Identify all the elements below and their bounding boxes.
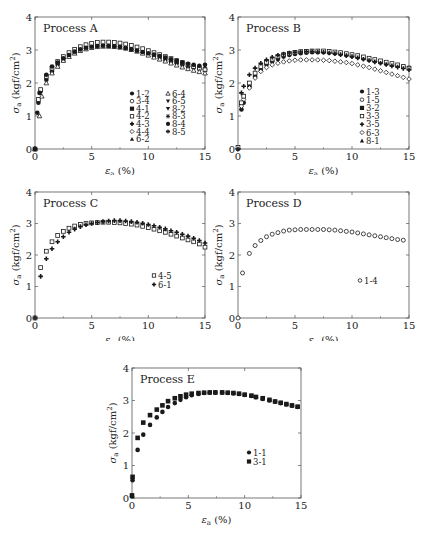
- x-tick-label: 10: [238, 500, 251, 511]
- y-tick-label: 2: [123, 428, 129, 439]
- legend-item: 3-1: [247, 457, 267, 467]
- x-tick-label: 5: [292, 320, 298, 331]
- x-tick-label: 10: [142, 151, 155, 162]
- x-axis: 051015: [129, 368, 308, 511]
- plot-frame: [238, 17, 409, 149]
- plot-area: 05101501234εa (%)σa (kgf/cm2)Process B1-…: [210, 0, 423, 175]
- chart-title: Process B: [246, 22, 301, 35]
- series-1-4: [236, 227, 405, 320]
- svg-text:6-2: 6-2: [136, 134, 150, 144]
- y-tick-label: 1: [229, 281, 235, 292]
- plot-area: 05101501234εa (%)σa (kgf/cm2)Process C4-…: [0, 176, 215, 341]
- x-axis: 051015: [235, 17, 416, 162]
- svg-text:6-1: 6-1: [158, 280, 172, 290]
- x-tick-label: 5: [88, 151, 94, 162]
- data-points: [130, 390, 300, 499]
- y-tick-label: 2: [229, 250, 235, 261]
- series-1-1: [130, 390, 300, 498]
- y-tick-label: 1: [123, 460, 129, 471]
- plot-frame: [132, 368, 301, 498]
- data-points: [236, 49, 412, 151]
- y-tick-label: 0: [229, 144, 235, 155]
- legend: 1-4: [358, 276, 378, 286]
- x-tick-label: 15: [295, 500, 308, 511]
- svg-text:3-1: 3-1: [253, 457, 267, 467]
- data-points: [33, 218, 208, 320]
- x-tick-label: 15: [403, 320, 416, 331]
- x-tick-label: 5: [185, 500, 191, 511]
- legend-item: 8-5: [166, 127, 186, 137]
- x-tick-label: 0: [235, 151, 241, 162]
- legend-item: 1-4: [358, 276, 378, 286]
- chart-process-a: 05101501234εa (%)σa (kgf/cm2)Process A1-…: [0, 0, 215, 179]
- y-tick-label: 1: [26, 281, 32, 292]
- x-axis-label: εa (%): [308, 165, 338, 175]
- y-tick-label: 0: [123, 493, 129, 504]
- y-tick-label: 0: [26, 144, 32, 155]
- y-tick-label: 3: [229, 45, 235, 56]
- x-tick-label: 15: [403, 151, 416, 162]
- x-tick-label: 5: [292, 151, 298, 162]
- chart-title: Process C: [43, 197, 98, 210]
- plot-area: 05101501234εa (%)σa (kgf/cm2)Process A1-…: [0, 0, 215, 175]
- svg-text:8-5: 8-5: [172, 127, 186, 137]
- plot-area: 05101501234εa (%)σa (kgf/cm2)Process D1-…: [210, 176, 423, 341]
- y-tick-label: 4: [229, 12, 235, 23]
- plot-frame: [238, 192, 409, 318]
- x-axis-label: εa (%): [201, 514, 231, 527]
- y-axis-label: σa (kgf/cm2): [212, 224, 226, 285]
- chart-process-b: 05101501234εa (%)σa (kgf/cm2)Process B1-…: [210, 0, 423, 179]
- y-tick-label: 4: [123, 363, 129, 374]
- chart-process-d: 05101501234εa (%)σa (kgf/cm2)Process D1-…: [210, 176, 423, 345]
- chart-process-c: 05101501234εa (%)σa (kgf/cm2)Process C4-…: [0, 176, 215, 345]
- x-tick-label: 0: [32, 151, 38, 162]
- x-tick-label: 0: [32, 320, 38, 331]
- series-3-1: [130, 390, 300, 498]
- y-tick-label: 0: [229, 313, 235, 324]
- y-tick-label: 2: [26, 78, 32, 89]
- y-tick-label: 4: [26, 187, 32, 198]
- legend: 4-56-1: [152, 271, 172, 290]
- x-axis-label: εa (%): [105, 165, 135, 175]
- x-tick-label: 0: [235, 320, 241, 331]
- y-axis-label: σa (kgf/cm2): [212, 52, 226, 113]
- x-axis-label: εa (%): [308, 334, 338, 341]
- legend: 1-13-1: [247, 448, 267, 467]
- chart-process-e: 05101501234εa (%)σa (kgf/cm2)Process E1-…: [100, 342, 330, 535]
- plot-frame: [35, 192, 205, 318]
- svg-text:8-1: 8-1: [366, 136, 380, 146]
- x-axis-label: εa (%): [105, 334, 135, 341]
- y-tick-label: 2: [229, 78, 235, 89]
- y-tick-label: 1: [229, 111, 235, 122]
- y-tick-label: 3: [26, 218, 32, 229]
- chart-title: Process E: [140, 373, 195, 386]
- y-axis-label: σa (kgf/cm2): [9, 52, 23, 113]
- x-tick-label: 0: [129, 500, 135, 511]
- y-tick-label: 0: [26, 313, 32, 324]
- legend: 1-23-44-14-24-34-46-26-46-58-28-38-48-5: [130, 89, 186, 145]
- svg-text:1-4: 1-4: [364, 276, 378, 286]
- y-axis-label: σa (kgf/cm2): [106, 402, 120, 463]
- x-tick-label: 10: [142, 320, 155, 331]
- x-tick-label: 10: [346, 151, 359, 162]
- series-6-3: [236, 58, 412, 152]
- legend: 1-31-53-23-33-56-38-1: [360, 87, 380, 146]
- x-axis: 051015: [32, 192, 212, 331]
- y-tick-label: 3: [229, 218, 235, 229]
- series-4-5: [33, 220, 207, 320]
- legend-item: 6-2: [130, 134, 150, 144]
- plot-area: 05101501234εa (%)σa (kgf/cm2)Process E1-…: [100, 342, 330, 535]
- x-tick-label: 5: [88, 320, 94, 331]
- x-axis: 051015: [235, 192, 416, 331]
- y-tick-label: 3: [123, 395, 129, 406]
- y-tick-label: 2: [26, 250, 32, 261]
- x-tick-label: 10: [346, 320, 359, 331]
- chart-title: Process A: [43, 22, 99, 35]
- legend-item: 8-1: [360, 136, 380, 146]
- legend-item: 6-1: [152, 280, 172, 290]
- y-tick-label: 4: [229, 187, 235, 198]
- chart-title: Process D: [246, 197, 302, 210]
- data-points: [236, 227, 405, 320]
- y-axis-label: σa (kgf/cm2): [9, 224, 23, 285]
- y-tick-label: 1: [26, 111, 32, 122]
